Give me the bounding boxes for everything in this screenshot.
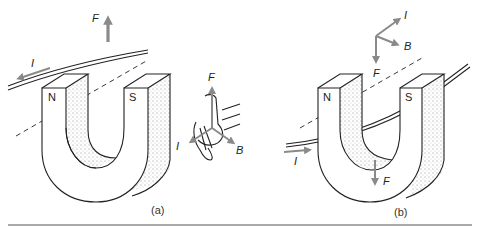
right-hand-rule-a: F I B: [176, 71, 243, 160]
south-pole-label-a: S: [129, 91, 136, 103]
north-pole-label-a: N: [48, 91, 56, 103]
triad-current-label: I: [404, 9, 407, 21]
triad-field-label: B: [404, 40, 411, 52]
force-arrow-a: F: [92, 12, 108, 42]
panel-b: I B F I N S: [284, 9, 470, 218]
caption-a: (a): [151, 204, 164, 216]
south-pole-label-b: S: [405, 91, 412, 103]
u-magnet-a: N S: [42, 74, 170, 202]
rhr-field-label: B: [236, 144, 243, 156]
caption-b: (b): [394, 206, 407, 218]
current-label-b: I: [294, 155, 297, 167]
vector-triad-b: I B F: [373, 9, 411, 79]
u-magnet-b: N S: [318, 74, 444, 202]
rhr-force-label: F: [208, 71, 216, 83]
current-arrow-b: I: [284, 150, 308, 167]
rhr-current-label: I: [176, 140, 179, 152]
current-arrow-a: I: [20, 57, 50, 78]
triad-force-label: F: [373, 67, 381, 79]
panel-a: F I N: [8, 12, 243, 216]
magnetic-force-diagram: F I N: [0, 0, 483, 227]
north-pole-label-b: N: [323, 91, 331, 103]
current-label-a: I: [31, 57, 34, 69]
force-label-a: F: [92, 12, 100, 24]
